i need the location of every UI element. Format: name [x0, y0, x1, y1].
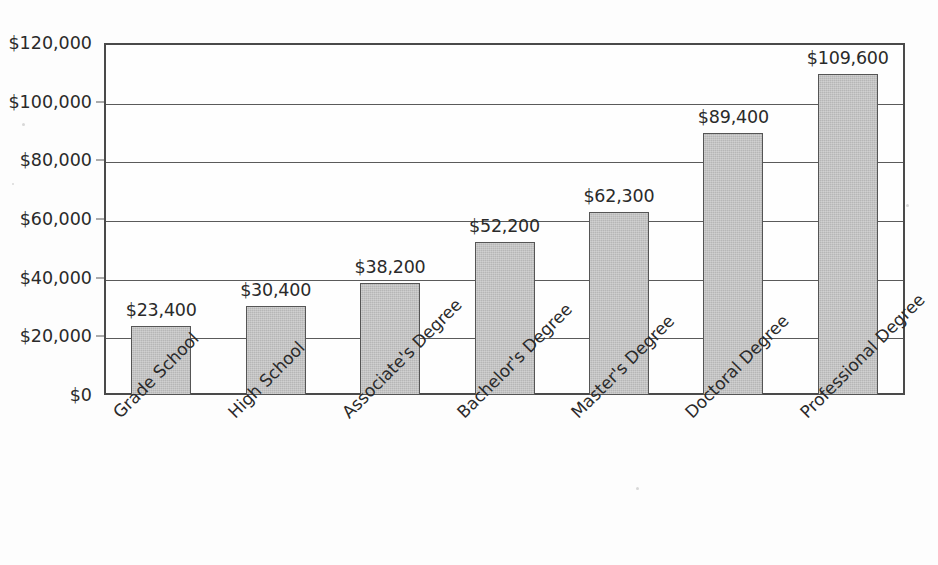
x-axis-category-labels: Grade SchoolHigh SchoolAssociate's Degre… [0, 0, 938, 565]
bar-chart: $0$20,000$40,000$60,000$80,000$100,000$1… [0, 0, 938, 565]
x-axis-category-label: Associate's Degree [338, 295, 466, 423]
x-axis-category-label: Master's Degree [567, 311, 678, 422]
x-axis-category-label: Professional Degree [796, 290, 929, 423]
scan-speck [22, 123, 25, 126]
x-axis-category-label: Doctoral Degree [681, 311, 793, 423]
x-axis-category-label: Grade School [109, 328, 203, 422]
scan-speck [906, 204, 909, 207]
x-axis-category-label: High School [224, 337, 309, 422]
x-axis-category-label: Bachelor's Degree [453, 299, 576, 422]
scan-speck [12, 183, 14, 185]
scan-speck [636, 487, 639, 490]
